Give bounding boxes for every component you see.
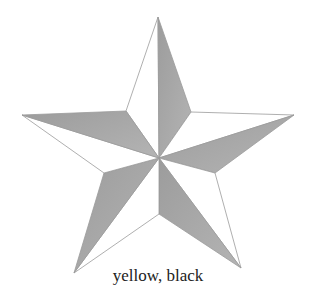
star-icon (22, 17, 294, 273)
caption: yellow, black (0, 266, 316, 286)
star-graphic (0, 0, 316, 303)
